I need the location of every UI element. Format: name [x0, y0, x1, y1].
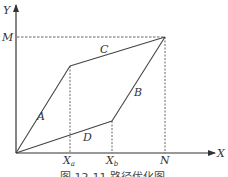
- path-c-label: C: [100, 43, 109, 56]
- path-a-label: A: [36, 110, 45, 123]
- figure-caption: 图 12-11 路径优化图: [60, 170, 165, 177]
- path-diagram: Y X M Xa Xb N A C D B 图 12-11 路径优化图: [0, 0, 228, 177]
- xa-label: Xa: [62, 154, 75, 168]
- path-c: [70, 37, 165, 66]
- xb-label: Xb: [105, 154, 119, 168]
- m-label: M: [1, 31, 14, 44]
- y-axis-label: Y: [3, 4, 12, 17]
- n-label: N: [159, 154, 170, 167]
- path-d-label: D: [82, 131, 92, 144]
- path-d: [16, 121, 112, 153]
- x-axis-label: X: [216, 147, 226, 160]
- path-b: [112, 37, 165, 121]
- path-b-label: B: [133, 86, 142, 99]
